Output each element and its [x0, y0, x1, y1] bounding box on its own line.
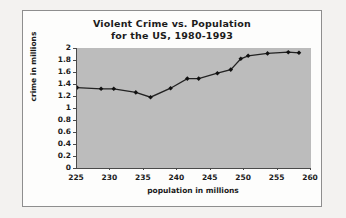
- data-point-marker: [196, 76, 201, 81]
- y-tick-label: 1.8: [41, 56, 71, 64]
- y-axis-label: crime in millions: [29, 12, 38, 122]
- data-point-marker: [215, 71, 220, 76]
- chart-title-line1: Violent Crime vs. Population: [93, 18, 251, 29]
- data-point-marker: [286, 50, 291, 55]
- x-tick-label: 240: [161, 174, 191, 182]
- x-tick-label: 255: [262, 174, 292, 182]
- x-tick-label: 250: [228, 174, 258, 182]
- x-tick-label: 245: [195, 174, 225, 182]
- data-point-marker: [265, 51, 270, 56]
- data-line: [77, 52, 299, 97]
- data-point-marker: [148, 95, 153, 100]
- data-point-marker: [77, 85, 79, 90]
- chart-screenshot: Violent Crime vs. Population for the US,…: [0, 0, 346, 218]
- data-point-marker: [297, 51, 302, 56]
- data-point-marker: [246, 54, 251, 59]
- plot-area: [76, 48, 311, 169]
- y-tick-label: 0: [41, 164, 71, 172]
- y-tick-label: 1.6: [41, 68, 71, 76]
- data-point-marker: [111, 87, 116, 92]
- y-tick-label: 0.6: [41, 128, 71, 136]
- y-tick-label: 0.2: [41, 152, 71, 160]
- y-tick-label: 2: [41, 44, 71, 52]
- x-tick-label: 235: [128, 174, 158, 182]
- y-tick-label: 1.2: [41, 92, 71, 100]
- x-axis-label: population in millions: [76, 186, 310, 195]
- y-tick-label: 1: [41, 104, 71, 112]
- data-markers: [77, 50, 301, 100]
- x-tick-label: 230: [94, 174, 124, 182]
- y-tick-label: 0.4: [41, 140, 71, 148]
- x-tick-label: 225: [61, 174, 91, 182]
- data-point-marker: [99, 87, 104, 92]
- y-tick-label: 1.4: [41, 80, 71, 88]
- series-line-chart: [77, 48, 311, 168]
- data-point-marker: [134, 90, 139, 95]
- y-tick-label: 0.8: [41, 116, 71, 124]
- x-tick-label: 260: [295, 174, 325, 182]
- chart-title-line2: for the US, 1980-1993: [22, 30, 322, 42]
- chart-title: Violent Crime vs. Population for the US,…: [22, 18, 322, 41]
